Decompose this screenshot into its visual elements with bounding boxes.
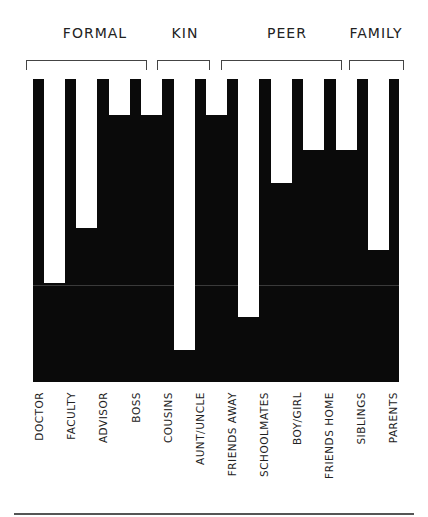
bar: BOSS <box>141 79 162 115</box>
category-label: FRIENDS HOME <box>323 392 335 479</box>
category-label: SIBLINGS <box>355 392 367 445</box>
group-label: KIN <box>172 25 199 41</box>
category-label: BOSS <box>130 392 142 423</box>
bar: BOY/GIRL <box>303 79 324 150</box>
bar: FRIENDS AWAY <box>238 79 259 317</box>
bar: FRIENDS HOME <box>336 79 357 150</box>
group-bracket <box>26 60 147 70</box>
category-label: PARENTS <box>387 392 399 443</box>
category-label: BOY/GIRL <box>291 392 303 445</box>
category-label: COUSINS <box>162 392 174 443</box>
bar: DOCTOR <box>44 79 65 283</box>
group-label: FORMAL <box>63 25 127 41</box>
bar: COUSINS <box>174 79 195 350</box>
category-label: FRIENDS AWAY <box>226 392 238 476</box>
group-label: PEER <box>267 25 307 41</box>
group-bracket <box>157 60 210 70</box>
bar: ADVISOR <box>109 79 130 115</box>
plot-area: DOCTORFACULTYADVISORBOSSCOUSINSAUNT/UNCL… <box>33 79 399 382</box>
bar: PARENTS <box>400 79 421 115</box>
bar: SIBLINGS <box>368 79 389 250</box>
gridline <box>33 285 399 286</box>
bottom-rule <box>14 513 414 515</box>
group-label: FAMILY <box>349 25 402 41</box>
category-label: AUNT/UNCLE <box>194 392 206 465</box>
category-label: ADVISOR <box>97 392 109 443</box>
category-label: SCHOOLMATES <box>258 392 270 477</box>
category-label: DOCTOR <box>33 392 45 441</box>
bar: AUNT/UNCLE <box>206 79 227 115</box>
group-bracket <box>349 60 404 70</box>
group-bracket <box>221 60 342 70</box>
category-label: FACULTY <box>65 392 77 440</box>
bar: SCHOOLMATES <box>271 79 292 183</box>
bar: FACULTY <box>76 79 97 228</box>
